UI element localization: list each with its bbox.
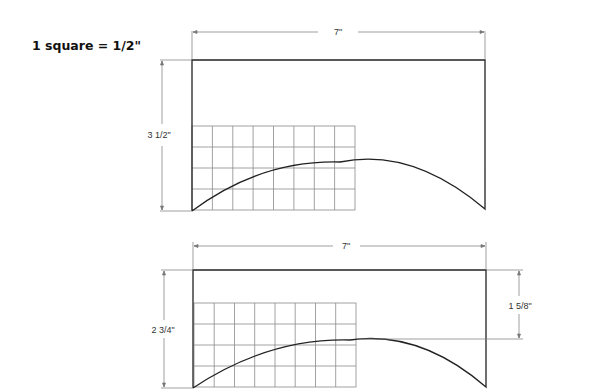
top-height-label: 3 1/2"	[147, 130, 170, 140]
bottom-side-dimension	[356, 270, 523, 339]
bottom-grid	[194, 303, 356, 387]
pattern-diagram: 7" 3 1/2"	[0, 0, 616, 392]
top-grid	[192, 126, 355, 210]
top-width-label: 7"	[334, 27, 342, 37]
bottom-outline	[193, 270, 486, 388]
bottom-width-label: 7"	[342, 241, 350, 251]
bottom-side-label: 1 5/8"	[508, 301, 531, 311]
bottom-height-label: 2 3/4"	[151, 325, 174, 335]
bottom-width-dimension	[193, 242, 486, 270]
bottom-pattern: 7" 2 3/4" 1 5/8"	[151, 241, 531, 388]
top-pattern: 7" 3 1/2"	[147, 27, 485, 211]
top-outline	[192, 60, 485, 211]
